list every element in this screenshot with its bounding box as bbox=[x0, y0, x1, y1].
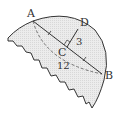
label-ab-length: 12 bbox=[57, 60, 70, 71]
diagram-canvas: A D C B 3 12 bbox=[0, 0, 122, 117]
label-b: B bbox=[105, 69, 113, 82]
label-a: A bbox=[26, 7, 36, 20]
label-cd-length: 3 bbox=[76, 36, 82, 47]
label-d: D bbox=[80, 16, 89, 29]
label-c: C bbox=[58, 46, 66, 59]
